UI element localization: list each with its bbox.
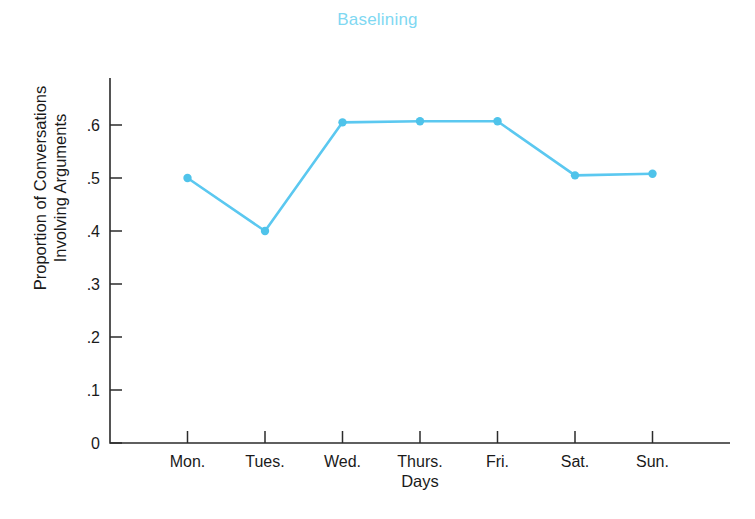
data-point-marker: Wed.: 0.605 — [338, 118, 346, 126]
y-tick-label: .2 — [87, 329, 100, 346]
x-tick-label: Mon. — [170, 453, 206, 470]
x-tick-label: Wed. — [324, 453, 361, 470]
x-axis-ticks: Mon.Tues.Wed.Thurs.Fri.Sat.Sun. — [170, 431, 669, 470]
x-tick-label: Sat. — [561, 453, 589, 470]
data-point-marker: Sat.: 0.505 — [571, 171, 579, 179]
axis-lines — [110, 78, 730, 443]
axes — [110, 78, 730, 443]
y-axis-ticks: 0.1.2.3.4.5.6 — [87, 117, 122, 452]
data-point-marker: Tues.: 0.4 — [261, 227, 269, 235]
data-point-marker: Thurs.: 0.607 — [416, 117, 424, 125]
data-point-marker: Fri.: 0.607 — [493, 117, 501, 125]
y-tick-label: .1 — [87, 382, 100, 399]
data-point-marker: Sun.: 0.508 — [648, 170, 656, 178]
plot-area: 0.1.2.3.4.5.6 Mon.Tues.Wed.Thurs.Fri.Sat… — [0, 0, 755, 519]
x-tick-label: Fri. — [486, 453, 509, 470]
x-tick-label: Tues. — [245, 453, 284, 470]
y-tick-label: .6 — [87, 117, 100, 134]
y-tick-label: .3 — [87, 276, 100, 293]
chart-figure: Baselining Proportion of Conversations I… — [0, 0, 755, 519]
data-series: Mon.: 0.5Tues.: 0.4Wed.: 0.605Thurs.: 0.… — [183, 117, 656, 235]
x-tick-label: Thurs. — [397, 453, 442, 470]
x-tick-label: Sun. — [636, 453, 669, 470]
y-tick-label: .4 — [87, 223, 100, 240]
y-tick-label: 0 — [91, 435, 100, 452]
series-line — [188, 121, 653, 231]
y-tick-label: .5 — [87, 170, 100, 187]
data-point-marker: Mon.: 0.5 — [183, 174, 191, 182]
